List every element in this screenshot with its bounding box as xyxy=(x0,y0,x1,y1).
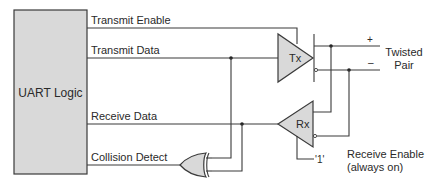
uart-logic-label: UART Logic xyxy=(18,86,82,100)
inversion-bubble xyxy=(314,68,317,71)
receive-enable-label: Receive Enable xyxy=(347,148,424,160)
receive-enable-note: (always on) xyxy=(347,161,403,173)
inversion-bubble xyxy=(313,134,316,137)
transmit-data-signal: Transmit Data xyxy=(87,44,278,158)
tx-label: Tx xyxy=(289,52,302,64)
transmit-enable-signal: Transmit Enable xyxy=(87,14,297,44)
receive-data-label: Receive Data xyxy=(91,110,158,122)
plus-label: + xyxy=(367,34,373,45)
twisted-pair-plus: + xyxy=(313,34,380,112)
xor-gate xyxy=(180,153,212,177)
transmit-enable-label: Transmit Enable xyxy=(91,14,171,26)
receive-enable: '1' Receive Enable (always on) xyxy=(297,136,424,173)
tx-driver: Tx xyxy=(278,34,313,82)
collision-detect-label: Collision Detect xyxy=(91,151,167,163)
twisted-pair-label: Twisted Pair xyxy=(385,46,422,71)
transmit-data-label: Transmit Data xyxy=(91,44,161,56)
minus-label: – xyxy=(368,57,374,68)
receive-enable-value: '1' xyxy=(315,154,324,165)
collision-detect-signal: Collision Detect xyxy=(87,151,180,165)
svg-text:Pair: Pair xyxy=(394,59,414,71)
twisted-pair-minus: – xyxy=(314,57,380,136)
svg-text:Twisted: Twisted xyxy=(385,46,422,58)
uart-logic-block: UART Logic xyxy=(14,10,87,174)
rx-label: Rx xyxy=(296,118,310,130)
uart-diagram: UART Logic Transmit Enable Transmit Data… xyxy=(0,0,440,188)
